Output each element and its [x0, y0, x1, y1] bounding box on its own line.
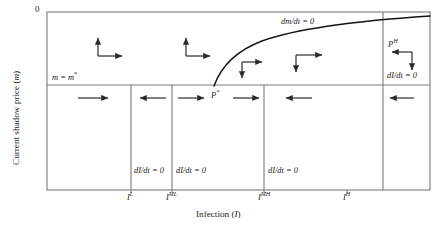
annotation-p-high: PH: [388, 41, 398, 49]
x-tick-sup-I-MH: MH: [261, 191, 270, 197]
x-tick-sup-I-H: H: [346, 191, 350, 197]
phase-diagram-figure: 0 Current shadow price (m) Infection (I)…: [0, 0, 437, 230]
x-axis-title-plain: Infection (: [196, 209, 235, 219]
x-axis-title-close: ): [238, 209, 241, 219]
annotation-dI-dt-2: dI/dt = 0: [176, 167, 206, 175]
annotation-dm-dt: dm/dt = 0: [281, 18, 314, 26]
diagram-canvas: [0, 0, 437, 230]
y-axis-title-italic: m: [11, 74, 21, 81]
annotation-p-star: P*: [211, 92, 219, 100]
annotation-dI-dt-1: dI/dt = 0: [134, 167, 164, 175]
x-tick-sup-I-L: L: [130, 191, 133, 197]
x-tick-label-I-MH: IMH: [258, 194, 270, 202]
annotation-p-star-sup: *: [216, 88, 219, 95]
x-tick-label-I-ML: IML: [166, 194, 177, 202]
annotation-dI-dt-right: dI/dt = 0: [387, 72, 417, 80]
vector-arrow-up-right-1: [98, 38, 122, 56]
y-axis-title: Current shadow price (m): [12, 71, 21, 165]
annotation-m-star-base: m = m: [52, 73, 74, 82]
vector-arrow-right-down-2: [296, 55, 322, 72]
annotation-m-star: m = m*: [52, 74, 77, 82]
vector-arrow-right-down-1: [242, 62, 262, 78]
origin-label: 0: [35, 5, 40, 14]
annotation-p-high-sup: H: [393, 37, 397, 44]
annotation-m-star-sup: *: [74, 70, 77, 77]
vector-arrow-left-down-1: [392, 52, 412, 70]
vector-arrow-up-right-2: [186, 38, 210, 56]
x-tick-label-I-H: IH: [343, 194, 350, 202]
x-axis-title: Infection (I): [196, 210, 241, 219]
x-tick-label-I-L: IL: [127, 194, 133, 202]
plot-frame: [47, 12, 430, 190]
annotation-dI-dt-3: dI/dt = 0: [268, 167, 298, 175]
x-tick-sup-I-ML: ML: [169, 191, 177, 197]
y-axis-title-plain: Current shadow price (: [11, 81, 21, 165]
y-axis-title-close: ): [11, 71, 21, 74]
